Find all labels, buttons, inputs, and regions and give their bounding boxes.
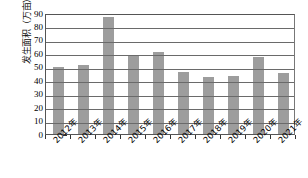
gridline (46, 69, 294, 70)
y-axis-tick-label: 80 (23, 23, 43, 32)
y-axis-tick-label: 0 (23, 131, 43, 140)
bar (78, 65, 89, 134)
gridline (46, 55, 294, 56)
y-axis-tick-label: 40 (23, 77, 43, 86)
x-axis-tick-mark (145, 135, 146, 139)
x-axis-tick-mark (70, 135, 71, 139)
x-axis-tick-mark (120, 135, 121, 139)
x-axis-tick-mark (45, 135, 46, 139)
y-axis-tick-label: 30 (23, 90, 43, 99)
bar (53, 67, 64, 134)
gridline (46, 82, 294, 83)
gridline (46, 28, 294, 29)
x-axis-tick-mark (295, 135, 296, 139)
y-axis-tick-label: 10 (23, 117, 43, 126)
x-axis-tick-mark (270, 135, 271, 139)
x-axis-tick-mark (170, 135, 171, 139)
y-axis-tick-label: 50 (23, 63, 43, 72)
y-axis-tick-label: 20 (23, 104, 43, 113)
gridline (46, 109, 294, 110)
y-axis-tick-label: 90 (23, 10, 43, 19)
bar-chart: 发生面积（万亩） 0102030405060708090 2012年2013年2… (0, 0, 308, 178)
gridline (46, 96, 294, 97)
y-axis-tick-label: 70 (23, 36, 43, 45)
gridline (46, 42, 294, 43)
y-axis-tick-label: 60 (23, 50, 43, 59)
x-axis-tick-mark (195, 135, 196, 139)
x-axis-tick-mark (220, 135, 221, 139)
x-axis-tick-mark (245, 135, 246, 139)
y-axis-tick-labels: 0102030405060708090 (20, 0, 43, 178)
x-axis-tick-mark (95, 135, 96, 139)
